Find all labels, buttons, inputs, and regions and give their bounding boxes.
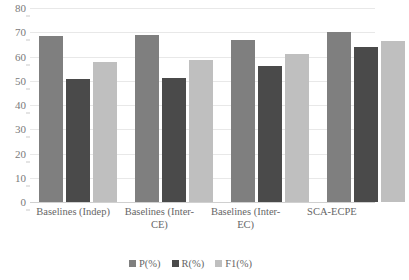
y-axis-tick-label: 50 <box>15 75 26 86</box>
bar[interactable] <box>354 47 378 202</box>
legend-label: F1(%) <box>225 258 252 269</box>
x-axis-category-label: Baselines (Indep) <box>30 205 116 231</box>
bar[interactable] <box>93 62 117 202</box>
bar[interactable] <box>162 78 186 202</box>
bar[interactable] <box>189 60 213 202</box>
legend-item[interactable]: F1(%) <box>215 258 252 269</box>
bar[interactable] <box>285 54 309 202</box>
bar-group <box>222 8 318 202</box>
y-axis: 80706050403020100 <box>0 8 26 202</box>
x-axis-category-label: Baselines (Inter-EC) <box>203 205 289 231</box>
bar-group <box>30 8 126 202</box>
legend-swatch-icon <box>172 260 179 267</box>
bar[interactable] <box>66 79 90 202</box>
bar[interactable] <box>39 36 63 202</box>
bar[interactable] <box>327 32 351 202</box>
y-axis-tick-label: 80 <box>15 3 26 14</box>
y-axis-tick-label: 60 <box>15 51 26 62</box>
bar[interactable] <box>231 40 255 202</box>
y-axis-tick-label: 30 <box>15 124 26 135</box>
bar[interactable] <box>381 41 405 202</box>
legend-item[interactable]: R(%) <box>172 258 205 269</box>
chart-legend: P(%)R(%)F1(%) <box>0 258 381 269</box>
bar-groups <box>30 8 375 202</box>
legend-label: P(%) <box>139 258 161 269</box>
y-axis-tick-label: 40 <box>15 100 26 111</box>
y-axis-tick-label: 0 <box>21 197 27 208</box>
bar-group <box>318 8 409 202</box>
y-axis-tick-label: 70 <box>15 27 26 38</box>
bar-group <box>126 8 222 202</box>
x-axis-category-label: SCA-ECPE <box>289 205 375 231</box>
legend-swatch-icon <box>129 260 136 267</box>
legend-label: R(%) <box>182 258 205 269</box>
legend-item[interactable]: P(%) <box>129 258 161 269</box>
legend-swatch-icon <box>215 260 222 267</box>
y-axis-tick-label: 10 <box>15 172 26 183</box>
y-axis-tick-label: 20 <box>15 148 26 159</box>
bar[interactable] <box>135 35 159 202</box>
x-axis-category-label: Baselines (Inter-CE) <box>116 205 202 231</box>
x-axis-labels: Baselines (Indep)Baselines (Inter-CE)Bas… <box>30 205 375 231</box>
x-axis-line <box>30 202 375 203</box>
bar[interactable] <box>258 66 282 202</box>
